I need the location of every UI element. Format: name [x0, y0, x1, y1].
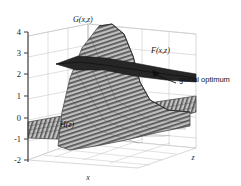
surface-plot-canvas: 4 3 2 1 0 -1 -2 x z G(x,z) F(x,z) H(z) g…	[0, 0, 241, 186]
global-optimum-label: global optimum	[179, 75, 230, 84]
figure-3d-surface-plot: 4 3 2 1 0 -1 -2 x z G(x,z) F(x,z) H(z) g…	[0, 0, 241, 186]
surface-G	[58, 24, 190, 150]
z-axis-label: z	[190, 153, 195, 162]
ytick-neg2: -2	[14, 155, 21, 165]
surface-label-F: F(x,z)	[150, 46, 170, 55]
ytick-3: 3	[17, 48, 21, 58]
surface-label-G: G(x,z)	[73, 15, 93, 24]
surface-label-H: H(z)	[59, 120, 75, 129]
ytick-0: 0	[17, 113, 21, 123]
ytick-1: 1	[17, 91, 21, 101]
ytick-4: 4	[17, 27, 22, 37]
ytick-2: 2	[17, 69, 21, 79]
x-axis-label: x	[85, 173, 90, 182]
ytick-neg1: -1	[14, 134, 21, 144]
value-axis: 4 3 2 1 0 -1 -2	[14, 27, 28, 165]
